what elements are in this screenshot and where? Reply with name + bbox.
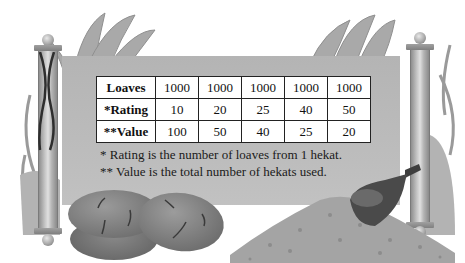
footnotes: * Rating is the number of loaves from 1 … — [100, 146, 342, 180]
ribbon-icon — [36, 52, 60, 152]
loaves-table: Loaves 1000 1000 1000 1000 1000 *Rating … — [96, 76, 371, 143]
row-header-value: **Value — [97, 121, 156, 143]
table-cell: 1000 — [242, 77, 285, 99]
table-cell: 20 — [199, 99, 242, 121]
left-pole-bottom-knob — [42, 234, 54, 246]
table-cell: 1000 — [328, 77, 371, 99]
scoop-icon — [345, 160, 425, 232]
table-cell: 1000 — [285, 77, 328, 99]
table-cell: 1000 — [199, 77, 242, 99]
row-header-loaves: Loaves — [97, 77, 156, 99]
footnote-value: ** Value is the total number of hekats u… — [100, 163, 342, 180]
table-cell: 25 — [242, 99, 285, 121]
table-row-loaves: Loaves 1000 1000 1000 1000 1000 — [97, 77, 371, 99]
table-cell: 25 — [285, 121, 328, 143]
table-row-value: **Value 100 50 40 25 20 — [97, 121, 371, 143]
table-cell: 100 — [156, 121, 199, 143]
illustration: Loaves 1000 1000 1000 1000 1000 *Rating … — [0, 0, 465, 263]
right-pole-top-knob — [414, 32, 426, 44]
table-cell: 1000 — [156, 77, 199, 99]
row-header-rating: *Rating — [97, 99, 156, 121]
table-cell: 50 — [328, 99, 371, 121]
table-cell: 40 — [242, 121, 285, 143]
bread-score-marks-icon — [70, 190, 230, 260]
footnote-rating: * Rating is the number of loaves from 1 … — [100, 146, 342, 163]
table-row-rating: *Rating 10 20 25 40 50 — [97, 99, 371, 121]
table-cell: 40 — [285, 99, 328, 121]
table-cell: 10 — [156, 99, 199, 121]
table-cell: 20 — [328, 121, 371, 143]
table-cell: 50 — [199, 121, 242, 143]
